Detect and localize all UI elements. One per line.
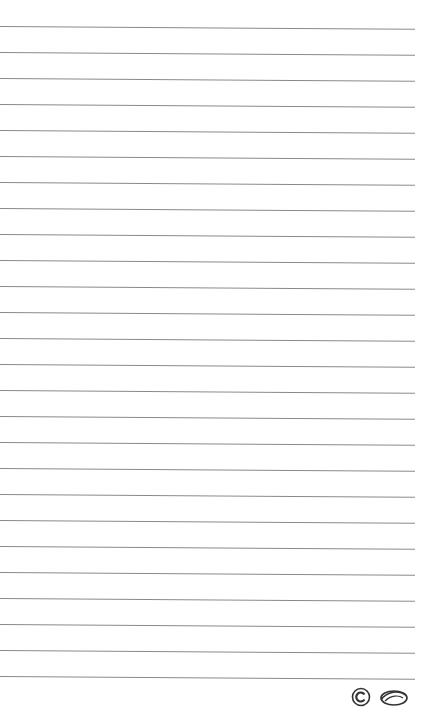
circle-c-logo-icon — [351, 687, 371, 707]
ruled-line — [0, 104, 415, 108]
ruled-line — [0, 468, 415, 472]
swirl-logo-icon — [377, 687, 409, 707]
ruled-line — [0, 520, 415, 524]
ruled-line — [0, 260, 415, 264]
ruled-line — [0, 156, 415, 160]
ruled-line — [0, 598, 415, 602]
ruled-line — [0, 52, 415, 56]
ruled-line — [0, 338, 415, 342]
ruled-line — [0, 234, 415, 238]
ruled-line — [0, 624, 415, 628]
ruled-line — [0, 442, 415, 446]
ruled-line — [0, 26, 415, 30]
ruled-line — [0, 182, 415, 186]
ruled-line — [0, 208, 415, 212]
ruled-line — [0, 494, 415, 498]
ruled-line — [0, 364, 415, 368]
ruled-line — [0, 390, 415, 394]
ruled-line — [0, 312, 415, 316]
ruled-line — [0, 650, 415, 654]
footer-logos — [351, 687, 409, 707]
ruled-line — [0, 676, 415, 680]
ruled-line — [0, 416, 415, 420]
ruled-line — [0, 572, 415, 576]
ruled-line — [0, 78, 415, 82]
ruled-line — [0, 286, 415, 290]
ruled-line — [0, 546, 415, 550]
ruled-line — [0, 130, 415, 134]
